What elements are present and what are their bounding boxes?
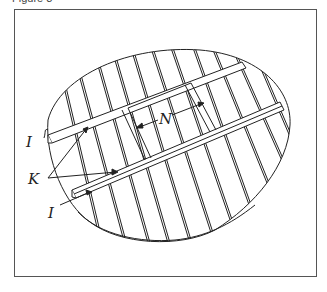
lid-diagram: N K I I: [0, 0, 327, 292]
label-i-top: I: [25, 133, 33, 151]
label-n: N: [158, 110, 173, 128]
label-k: K: [27, 170, 40, 188]
label-i-bottom: I: [47, 204, 55, 222]
